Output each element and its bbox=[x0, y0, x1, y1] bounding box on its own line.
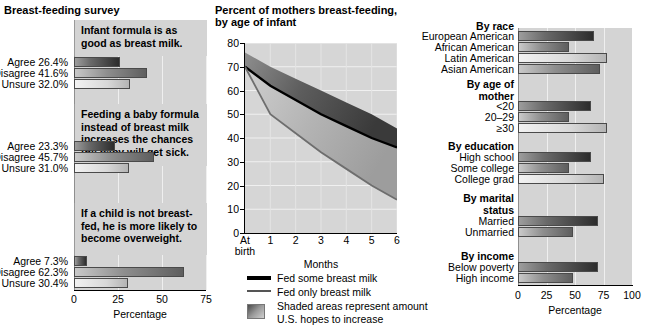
demographic-row-bar bbox=[518, 101, 591, 111]
demographic-row-label: Asian American bbox=[415, 64, 514, 75]
demographic-row: High income bbox=[415, 273, 645, 284]
legend-line-thick-icon bbox=[247, 276, 271, 280]
demographic-group-heading: By age of bbox=[415, 78, 514, 90]
y-axis-tick-mark bbox=[240, 138, 245, 139]
axis-tick-label: 0 bbox=[515, 289, 521, 301]
demographic-row: Some college bbox=[415, 163, 645, 174]
left-x-axis-line bbox=[74, 290, 206, 291]
axis-tick-label: 25 bbox=[541, 289, 553, 301]
x-axis-tick-labels: Atbirth123456 bbox=[245, 235, 397, 259]
axis-tick-label: 25 bbox=[112, 293, 124, 305]
x-axis-tick-label: 5 bbox=[369, 235, 375, 246]
demographic-row-label: ≥30 bbox=[415, 123, 514, 134]
demographic-row-bar bbox=[518, 174, 604, 184]
center-title-line1: Percent of mothers breast-feeding, bbox=[215, 4, 397, 16]
survey-response-label: Unsure 32.0% bbox=[0, 79, 68, 90]
axis-tick-label: 100 bbox=[623, 289, 641, 301]
demographic-row-bar bbox=[518, 64, 600, 74]
x-axis-tick-label: 1 bbox=[267, 235, 273, 246]
legend-item-fed-some: Fed some breast milk bbox=[247, 272, 415, 286]
survey-response-bar bbox=[74, 256, 87, 266]
center-panel-title: Percent of mothers breast-feeding, by ag… bbox=[215, 4, 397, 28]
survey-response-label: Unsure 30.4% bbox=[0, 278, 68, 289]
demographic-row: Married bbox=[415, 216, 645, 227]
demographic-row-label: Unmarried bbox=[415, 227, 514, 238]
left-x-axis-ticks: 0255075 bbox=[74, 293, 206, 305]
y-axis-tick-label: 50 bbox=[227, 108, 239, 120]
line-chart-plot-area bbox=[245, 43, 397, 233]
survey-question-text: If a child is not breast-fed, he is more… bbox=[75, 203, 207, 249]
axis-tick-label: 0 bbox=[71, 293, 77, 305]
y-axis-tick-label: 20 bbox=[227, 180, 239, 192]
y-axis-tick-label: 40 bbox=[227, 132, 239, 144]
survey-response-label: Unsure 31.0% bbox=[0, 163, 68, 174]
y-axis-tick-labels: 01020304050607080 bbox=[215, 43, 243, 233]
y-axis-tick-mark bbox=[240, 67, 245, 68]
survey-response-bar bbox=[74, 57, 120, 67]
y-axis-tick-mark bbox=[240, 209, 245, 210]
x-axis-tick-label: Atbirth bbox=[229, 235, 261, 257]
legend-label: Fed only breast milk bbox=[277, 286, 371, 299]
left-x-axis-caption: Percentage bbox=[74, 308, 206, 320]
chart-legend: Fed some breast milk Fed only breast mil… bbox=[247, 272, 415, 326]
survey-question-text: Infant formula is as good as breast milk… bbox=[75, 20, 207, 53]
demographic-row: 20–29 bbox=[415, 112, 645, 123]
demographic-row-bar bbox=[518, 31, 594, 41]
demographic-row-bar bbox=[518, 42, 569, 52]
survey-response-row: Unsure 30.4% bbox=[0, 278, 206, 289]
survey-response-bar bbox=[74, 79, 130, 89]
demographic-group-heading: By marital bbox=[415, 192, 514, 204]
line-chart-panel: Percent of mothers breast-feeding, by ag… bbox=[207, 0, 415, 330]
axis-tick-label: 75 bbox=[598, 289, 610, 301]
y-axis-tick-label: 70 bbox=[227, 61, 239, 73]
legend-label-line2: U.S. hopes to increase bbox=[277, 313, 383, 326]
y-axis-tick-mark bbox=[240, 43, 245, 44]
demographic-row-bar bbox=[518, 53, 607, 63]
right-x-axis-line bbox=[518, 285, 633, 286]
y-axis-tick-label: 30 bbox=[227, 156, 239, 168]
survey-panel: Breast-feeding survey Infant formula is … bbox=[0, 0, 212, 330]
y-axis-tick-mark bbox=[240, 91, 245, 92]
y-axis-tick-label: 60 bbox=[227, 85, 239, 97]
x-axis-caption: Months bbox=[245, 258, 397, 270]
survey-response-bar bbox=[74, 152, 154, 162]
right-x-axis-ticks: 0255075100 bbox=[518, 289, 632, 301]
legend-area-swatch-icon bbox=[247, 304, 265, 319]
legend-label: Shaded areas represent amount bbox=[277, 300, 428, 313]
demographic-row-label: High income bbox=[415, 273, 514, 284]
demographic-row-bar bbox=[518, 216, 598, 226]
x-axis-tick-label: 4 bbox=[343, 235, 349, 246]
survey-response-bar bbox=[74, 163, 129, 173]
survey-response-bar bbox=[74, 68, 147, 78]
x-axis-tick-label: 3 bbox=[318, 235, 324, 246]
x-axis-tick-label: 2 bbox=[293, 235, 299, 246]
survey-response-row: Unsure 32.0% bbox=[0, 79, 206, 90]
axis-tick-label: 50 bbox=[156, 293, 168, 305]
survey-response-bar bbox=[74, 278, 128, 288]
survey-response-bar bbox=[74, 267, 184, 277]
legend-line-thin-icon bbox=[247, 290, 271, 292]
demographic-row: Below poverty bbox=[415, 262, 645, 273]
demographic-row-bar bbox=[518, 123, 607, 133]
right-x-axis-caption: Percentage bbox=[518, 304, 632, 316]
survey-question-block: If a child is not breast-fed, he is more… bbox=[74, 203, 207, 255]
y-axis-tick-mark bbox=[240, 186, 245, 187]
legend-label: Fed some breast milk bbox=[277, 272, 377, 285]
x-axis-tick-label: 6 bbox=[394, 235, 400, 246]
y-axis-tick-label: 10 bbox=[227, 203, 239, 215]
y-axis-tick-mark bbox=[240, 114, 245, 115]
y-axis-tick-label: 80 bbox=[227, 37, 239, 49]
demographic-row: College grad bbox=[415, 174, 645, 185]
demographic-row: ≥30 bbox=[415, 123, 645, 134]
legend-item-shaded-area: Shaded areas represent amount U.S. hopes… bbox=[247, 300, 415, 326]
left-panel-title: Breast-feeding survey bbox=[4, 4, 120, 16]
survey-response-bar bbox=[74, 141, 115, 151]
y-axis-tick-mark bbox=[240, 233, 245, 234]
demographics-panel: By raceEuropean AmericanAfrican American… bbox=[415, 0, 645, 330]
demographic-row: Unmarried bbox=[415, 227, 645, 238]
survey-question-block: Infant formula is as good as breast milk… bbox=[74, 20, 207, 56]
demographic-row-bar bbox=[518, 227, 573, 237]
legend-item-fed-only: Fed only breast milk bbox=[247, 286, 415, 300]
demographic-row: <20 bbox=[415, 101, 645, 112]
demographic-row-bar bbox=[518, 273, 573, 283]
